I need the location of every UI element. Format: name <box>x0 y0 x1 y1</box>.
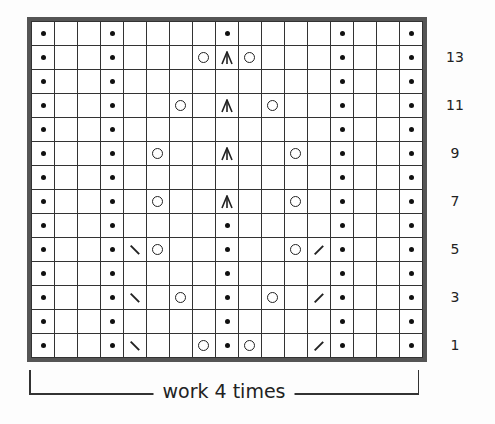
chart-cell <box>78 334 101 358</box>
chart-cell <box>285 46 308 70</box>
chart-cell <box>101 286 124 310</box>
chart-cell <box>377 262 400 286</box>
chart-cell <box>239 94 262 118</box>
chart-cell <box>262 190 285 214</box>
purl-dot-icon <box>400 118 422 141</box>
chart-row-10 <box>32 118 423 142</box>
chart-cell <box>400 310 423 334</box>
chart-cell <box>308 238 331 262</box>
chart-cell <box>216 46 239 70</box>
chart-cell <box>377 70 400 94</box>
chart-cell <box>124 22 147 46</box>
chart-cell <box>239 262 262 286</box>
purl-dot-icon <box>400 214 422 237</box>
chart-cell <box>239 286 262 310</box>
purl-dot-icon <box>32 286 54 309</box>
chart-row-12 <box>32 70 423 94</box>
purl-dot-icon <box>331 334 353 357</box>
chart-cell <box>400 22 423 46</box>
chart-cell <box>124 118 147 142</box>
chart-cell <box>308 142 331 166</box>
chart-cell <box>124 334 147 358</box>
chart-cell <box>32 214 55 238</box>
purl-dot-icon <box>101 118 123 141</box>
chart-cell <box>262 286 285 310</box>
chart-cell <box>32 334 55 358</box>
yarn-over-circle-icon <box>193 46 215 69</box>
chart-cell <box>78 94 101 118</box>
chart-cell <box>354 142 377 166</box>
purl-dot-icon <box>216 262 238 285</box>
purl-dot-icon <box>400 22 422 45</box>
chart-cell <box>101 46 124 70</box>
chart-cell <box>78 118 101 142</box>
chart-cell <box>170 286 193 310</box>
chart-cell <box>147 286 170 310</box>
chart-cell <box>124 286 147 310</box>
chart-cell <box>147 166 170 190</box>
chart-row-9 <box>32 142 423 166</box>
chart-cell <box>331 70 354 94</box>
chart-cell <box>331 46 354 70</box>
purl-dot-icon <box>400 190 422 213</box>
chart-cell <box>55 70 78 94</box>
chart-cell <box>101 334 124 358</box>
yarn-over-circle-icon <box>170 286 192 309</box>
chart-cell <box>101 94 124 118</box>
chart-cell <box>124 70 147 94</box>
purl-dot-icon <box>331 190 353 213</box>
chart-cell <box>354 262 377 286</box>
row-label-11: 11 <box>440 97 470 113</box>
chart-row-14 <box>32 22 423 46</box>
chart-cell <box>32 310 55 334</box>
chart-cell <box>285 214 308 238</box>
chart-cell <box>216 334 239 358</box>
chart-cell <box>331 142 354 166</box>
chart-cell <box>170 22 193 46</box>
purl-dot-icon <box>331 46 353 69</box>
chart-cell <box>285 94 308 118</box>
right-decrease-icon <box>308 286 330 309</box>
chart-cell <box>377 166 400 190</box>
left-decrease-icon <box>124 286 146 309</box>
purl-dot-icon <box>331 238 353 261</box>
chart-cell <box>193 286 216 310</box>
chart-cell <box>285 286 308 310</box>
chart-cell <box>193 46 216 70</box>
chart-cell <box>55 166 78 190</box>
chart-cell <box>170 94 193 118</box>
purl-dot-icon <box>331 310 353 333</box>
chart-cell <box>147 142 170 166</box>
left-decrease-icon <box>124 334 146 357</box>
repeat-bracket: work 4 times <box>29 370 419 396</box>
right-decrease-icon <box>308 334 330 357</box>
purl-dot-icon <box>400 166 422 189</box>
chart-cell <box>239 22 262 46</box>
chart-cell <box>354 22 377 46</box>
purl-dot-icon <box>32 118 54 141</box>
purl-dot-icon <box>216 286 238 309</box>
chart-cell <box>377 94 400 118</box>
chart-cell <box>147 238 170 262</box>
chart-cell <box>285 262 308 286</box>
chart-cell <box>55 286 78 310</box>
chart-cell <box>308 118 331 142</box>
chart-cell <box>308 70 331 94</box>
purl-dot-icon <box>32 190 54 213</box>
yarn-over-circle-icon <box>147 142 169 165</box>
purl-dot-icon <box>331 22 353 45</box>
purl-dot-icon <box>331 94 353 117</box>
chart-cell <box>354 94 377 118</box>
chart-cell <box>308 22 331 46</box>
yarn-over-circle-icon <box>285 238 307 261</box>
chart-cell <box>78 214 101 238</box>
chart-cell <box>170 46 193 70</box>
chart-cell <box>193 118 216 142</box>
purl-dot-icon <box>400 94 422 117</box>
chart-row-4 <box>32 262 423 286</box>
purl-dot-icon <box>32 310 54 333</box>
chart-cell <box>170 190 193 214</box>
chart-cell <box>216 214 239 238</box>
chart-cell <box>239 190 262 214</box>
chart-cell <box>216 262 239 286</box>
